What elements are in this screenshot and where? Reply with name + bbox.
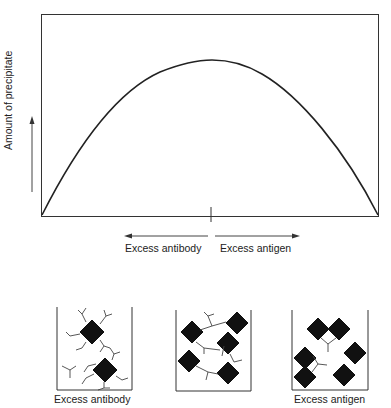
antigen-icon [294, 366, 316, 388]
left-arrow-icon [124, 234, 208, 239]
y-axis-arrow-icon [30, 116, 35, 192]
antigen-icon [93, 358, 117, 382]
beaker-excess-antibody [57, 307, 132, 390]
y-axis-label: Amount of precipitate [2, 51, 14, 150]
antigen-icon [344, 342, 366, 364]
x-label-excess-antigen: Excess antigen [220, 242, 291, 254]
right-arrow-icon [215, 234, 300, 239]
antigen-icon [328, 318, 350, 340]
antigen-icon [333, 364, 355, 386]
antigen-icon [217, 362, 239, 384]
beaker-label-excess-antibody: Excess antibody [54, 393, 130, 405]
plot-frame [42, 15, 379, 217]
beaker-label-excess-antigen: Excess antigen [294, 393, 365, 405]
antigen-icon [217, 332, 239, 354]
precipitin-curve [42, 60, 378, 215]
antigen-icon [181, 321, 203, 343]
antigen-icon [307, 318, 329, 340]
beaker-equivalence [176, 310, 251, 391]
beaker-excess-antigen [292, 310, 368, 390]
antigen-icon [178, 350, 200, 372]
antigen-icon [226, 312, 248, 334]
precipitin-diagram [0, 0, 391, 408]
x-label-excess-antibody: Excess antibody [125, 242, 201, 254]
